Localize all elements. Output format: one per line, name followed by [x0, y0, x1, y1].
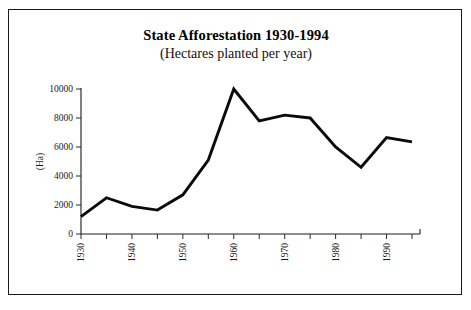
y-axis-tick-label: 8000 [54, 113, 73, 123]
x-axis: 1930194019501960197019801990 [76, 229, 420, 262]
x-axis-tick-label: 1940 [127, 243, 137, 262]
x-axis-tick-label: 1970 [280, 243, 290, 262]
y-axis: 0200040006000800010000 [49, 84, 81, 239]
chart-frame: State Afforestation 1930-1994 (Hectares … [8, 9, 462, 295]
x-axis-tick-label: 1980 [331, 243, 341, 262]
x-axis-tick-label: 1960 [229, 243, 239, 262]
y-axis-title-group: (Ha) [35, 153, 46, 170]
x-axis-tick-label: 1930 [76, 243, 86, 262]
y-axis-tick-label: 4000 [54, 171, 73, 181]
y-axis-tick-label: 0 [68, 229, 73, 239]
data-series-line [81, 89, 412, 217]
x-axis-tick-label: 1990 [382, 243, 392, 262]
y-axis-tick-label: 2000 [54, 200, 73, 210]
y-axis-title: (Ha) [35, 153, 46, 170]
x-axis-tick-label: 1950 [178, 243, 188, 262]
line-chart-plot: 0200040006000800010000 19301940195019601… [9, 10, 463, 296]
y-axis-tick-label: 10000 [49, 84, 73, 94]
y-axis-tick-label: 6000 [54, 142, 73, 152]
data-series-group [81, 89, 412, 217]
